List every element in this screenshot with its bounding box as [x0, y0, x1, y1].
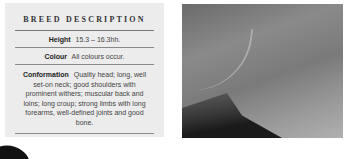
- conformation-value: Quality head; long, well set-on neck; go…: [23, 71, 146, 126]
- height-label: Height: [49, 36, 71, 43]
- height-value: 15.3 – 16.3hh.: [75, 36, 120, 43]
- conformation-row: Conformation Quality head; long, well se…: [15, 65, 154, 134]
- breed-description-panel: BREED DESCRIPTION Height 15.3 – 16.3hh. …: [5, 3, 164, 137]
- height-row: Height 15.3 – 16.3hh.: [15, 31, 154, 48]
- colour-row: Colour All colours occur.: [15, 48, 154, 65]
- photo-highlight: [182, 20, 253, 98]
- colour-value: All colours occur.: [72, 53, 125, 60]
- horse-photo: [182, 4, 343, 138]
- colour-label: Colour: [44, 53, 67, 60]
- panel-title: BREED DESCRIPTION: [15, 3, 154, 31]
- photo-shadow: [182, 88, 282, 138]
- decorative-black-shape: [0, 141, 34, 159]
- conformation-label: Conformation: [23, 71, 69, 78]
